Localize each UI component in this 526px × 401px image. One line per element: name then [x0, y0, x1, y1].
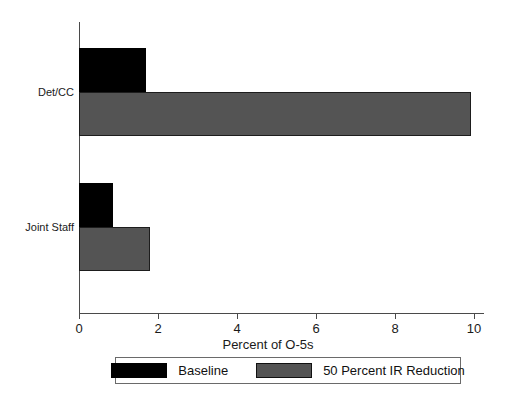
x-tick-label-4: 4 — [217, 322, 257, 335]
bar-det-cc-reduction — [79, 92, 471, 136]
x-tick-0 — [79, 313, 80, 319]
bar-joint-staff-baseline — [79, 183, 113, 227]
legend-entry-baseline: Baseline — [111, 363, 228, 378]
x-tick-label-8: 8 — [375, 322, 415, 335]
bar-det-cc-baseline — [79, 48, 146, 92]
x-tick-8 — [395, 313, 396, 319]
x-tick-label-6: 6 — [296, 322, 336, 335]
x-tick-6 — [316, 313, 317, 319]
x-tick-4 — [237, 313, 238, 319]
bar-joint-staff-reduction — [79, 227, 150, 271]
legend-swatch-baseline — [111, 363, 167, 378]
x-axis-title: Percent of O-5s — [188, 338, 348, 352]
x-tick-10 — [474, 313, 475, 319]
category-label-joint-staff: Joint Staff — [0, 222, 74, 233]
x-tick-label-0: 0 — [59, 322, 99, 335]
x-tick-label-2: 2 — [138, 322, 178, 335]
x-tick-2 — [158, 313, 159, 319]
plot-area: 0 2 4 6 8 10 Percent of O-5s Det/CC Join… — [0, 0, 526, 401]
x-tick-label-10: 10 — [454, 322, 494, 335]
legend-swatch-reduction — [256, 363, 312, 378]
category-label-det-cc: Det/CC — [0, 87, 74, 98]
legend: Baseline 50 Percent IR Reduction — [115, 357, 461, 384]
legend-label-reduction: 50 Percent IR Reduction — [323, 364, 465, 378]
legend-label-baseline: Baseline — [178, 364, 228, 378]
x-axis-line — [79, 313, 484, 314]
chart-root: 0 2 4 6 8 10 Percent of O-5s Det/CC Join… — [0, 0, 526, 401]
legend-entry-reduction: 50 Percent IR Reduction — [256, 363, 465, 378]
